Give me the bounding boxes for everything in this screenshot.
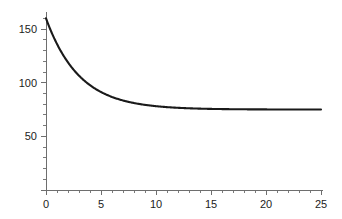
x-tick-label: 25 <box>315 198 327 210</box>
x-tick-label: 0 <box>43 198 49 210</box>
y-tick-label: 150 <box>19 23 37 35</box>
chart-container: 50100150 0510152025 <box>0 0 342 219</box>
decay-line-chart: 50100150 0510152025 <box>0 0 342 219</box>
x-tick-label: 5 <box>98 198 104 210</box>
y-tick-label: 50 <box>25 130 37 142</box>
y-tick-label: 100 <box>19 77 37 89</box>
x-tick-label: 10 <box>150 198 162 210</box>
x-tick-label: 15 <box>205 198 217 210</box>
x-tick-label: 20 <box>260 198 272 210</box>
